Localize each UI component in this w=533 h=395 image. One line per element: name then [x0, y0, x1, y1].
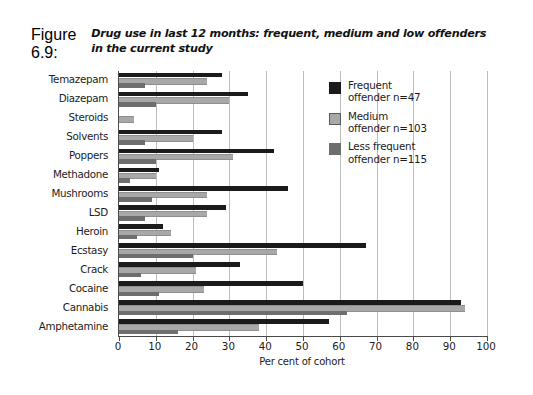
y-axis-label-cannabis: Cannabis — [63, 301, 108, 313]
y-axis-label-mushrooms: Mushrooms — [51, 187, 108, 199]
x-axis-tick-label-90: 90 — [443, 340, 456, 352]
legend-label-line2: offender n=47 — [348, 91, 420, 103]
page-title: Drug use in last 12 months: frequent, me… — [91, 26, 501, 57]
y-axis-label-steroids: Steroids — [68, 111, 108, 123]
legend-item: Mediumoffender n=103 — [329, 110, 504, 135]
y-axis-label-heroin: Heroin — [76, 225, 108, 237]
figure-number: Figure 6.9: — [31, 26, 91, 62]
y-axis-label-methadone: Methadone — [53, 168, 108, 180]
bar — [119, 73, 222, 78]
figure-container: Figure 6.9: Drug use in last 12 months: … — [0, 0, 533, 395]
bar — [119, 292, 159, 297]
legend-swatch-icon — [329, 143, 341, 155]
bar — [119, 254, 193, 259]
bar — [119, 330, 178, 335]
bar-group — [119, 279, 487, 298]
y-axis-label-amphetamine: Amphetamine — [39, 320, 108, 332]
x-axis-tick-label-80: 80 — [406, 340, 419, 352]
bar — [119, 140, 145, 145]
x-axis-tick-label-60: 60 — [332, 340, 345, 352]
x-axis-tick-label-10: 10 — [148, 340, 161, 352]
bar-group — [119, 298, 487, 317]
bar — [119, 273, 141, 278]
bar — [119, 300, 461, 305]
legend-swatch-icon — [329, 113, 341, 125]
legend-label-line1: Medium — [348, 110, 388, 122]
legend-item: Frequentoffender n=47 — [329, 79, 504, 104]
x-axis-title: Per cent of cohort — [118, 356, 486, 367]
y-axis-label-diazepam: Diazepam — [59, 92, 108, 104]
y-axis-label-solvents: Solvents — [66, 130, 108, 142]
figure-title-block: Figure 6.9: Drug use in last 12 months: … — [31, 26, 501, 62]
x-axis-tick-labels: 0102030405060708090100 — [118, 340, 486, 356]
bar — [119, 130, 222, 135]
bar — [119, 159, 156, 164]
x-axis-tick-label-70: 70 — [369, 340, 382, 352]
legend-label: Less frequentoffender n=115 — [348, 140, 427, 165]
bar-group — [119, 185, 487, 204]
bar — [119, 224, 163, 229]
bar-group — [119, 317, 487, 336]
legend-label: Frequentoffender n=47 — [348, 79, 420, 104]
legend-label-line2: offender n=115 — [348, 153, 427, 165]
y-axis-label-temazepam: Temazepam — [49, 73, 108, 85]
bar-group — [119, 204, 487, 223]
bar — [119, 92, 248, 97]
bar — [119, 149, 274, 154]
x-axis-tick-label-0: 0 — [115, 340, 122, 352]
legend-label-line2: offender n=103 — [348, 122, 427, 134]
bar-group — [119, 222, 487, 241]
legend-label-line1: Less frequent — [348, 140, 415, 152]
x-axis-tick-label-30: 30 — [222, 340, 235, 352]
y-axis-label-lsd: LSD — [89, 206, 108, 218]
y-axis-label-cocaine: Cocaine — [69, 282, 108, 294]
bar — [119, 197, 152, 202]
chart-legend: Frequentoffender n=47Mediumoffender n=10… — [329, 79, 504, 171]
bar — [119, 243, 366, 248]
bar — [119, 319, 329, 324]
bar — [119, 186, 288, 191]
bar-group — [119, 260, 487, 279]
y-axis-label-crack: Crack — [80, 263, 108, 275]
y-axis-label-poppers: Poppers — [69, 149, 108, 161]
legend-swatch-icon — [329, 82, 341, 94]
x-axis-tick-label-100: 100 — [476, 340, 496, 352]
legend-item: Less frequentoffender n=115 — [329, 140, 504, 165]
bar — [119, 168, 159, 173]
bar-group — [119, 241, 487, 260]
legend-label-line1: Frequent — [348, 79, 392, 91]
bar — [119, 311, 347, 316]
y-axis-labels: TemazepamDiazepamSteroidsSolventsPoppers… — [0, 71, 113, 336]
x-axis-tick-label-40: 40 — [259, 340, 272, 352]
bar — [119, 281, 303, 286]
legend-label: Mediumoffender n=103 — [348, 110, 427, 135]
bar — [119, 102, 156, 107]
y-axis-label-ecstasy: Ecstasy — [71, 244, 108, 256]
bar — [119, 235, 137, 240]
bar — [119, 262, 240, 267]
bar — [119, 205, 226, 210]
bar — [119, 83, 145, 88]
bar — [119, 116, 134, 123]
bar — [119, 216, 145, 221]
x-axis-tick-label-20: 20 — [185, 340, 198, 352]
x-axis-tick-label-50: 50 — [295, 340, 308, 352]
bar — [119, 178, 130, 183]
